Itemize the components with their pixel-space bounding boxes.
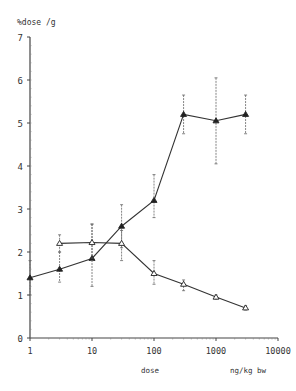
x-tick-label: 1000 — [206, 346, 226, 356]
x-tick-label: 1 — [27, 346, 32, 356]
series-line-0 — [30, 114, 246, 277]
data-point-marker — [243, 111, 249, 116]
y-tick-label: 1 — [18, 291, 23, 301]
chart: 01234567110100100010000%dose /gdoseng/kg… — [0, 0, 296, 391]
x-axis-unit: ng/kg bw — [230, 366, 267, 375]
data-point-marker — [181, 111, 187, 116]
y-tick-label: 5 — [18, 119, 23, 129]
y-tick-label: 4 — [18, 162, 23, 172]
data-point-marker — [151, 197, 157, 202]
x-tick-label: 10000 — [265, 346, 291, 356]
x-axis-label: dose — [141, 366, 160, 375]
y-tick-label: 2 — [18, 248, 23, 258]
y-axis-label: %dose /g — [17, 18, 56, 27]
y-tick-label: 6 — [18, 76, 23, 86]
x-tick-label: 10 — [87, 346, 97, 356]
y-tick-label: 0 — [18, 334, 23, 344]
y-tick-label: 7 — [18, 33, 23, 43]
x-tick-label: 100 — [146, 346, 161, 356]
y-tick-label: 3 — [18, 205, 23, 215]
